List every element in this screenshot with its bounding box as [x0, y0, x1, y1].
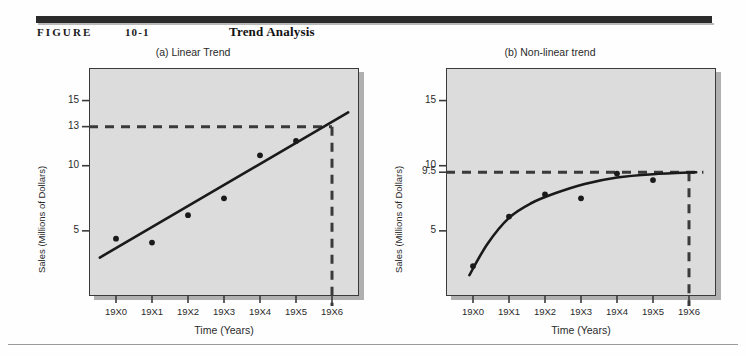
y-tick-label: 15	[398, 94, 436, 105]
y-axis-title-b: Sales (Millions of Dollars)	[393, 166, 404, 273]
data-point	[650, 177, 656, 183]
y-tick-label: 5	[41, 224, 79, 235]
data-point	[578, 195, 584, 201]
plot-graphics-b	[385, 46, 715, 346]
plot-graphics-a	[28, 46, 358, 346]
x-tick-label: 19X6	[668, 306, 710, 317]
y-tick-label: 15	[41, 94, 79, 105]
trend-line	[100, 112, 348, 257]
header-rule	[36, 16, 712, 23]
data-point	[149, 240, 155, 246]
data-point	[614, 171, 620, 177]
y-tick-label: 5	[398, 224, 436, 235]
data-point	[185, 212, 191, 218]
y-axis-title-a: Sales (Millions of Dollars)	[36, 166, 47, 273]
data-point	[113, 236, 119, 242]
x-tick-label: 19X6	[311, 306, 353, 317]
trend-curve	[469, 172, 696, 275]
figure-label: FIGURE	[37, 26, 92, 38]
figure-title: Trend Analysis	[229, 24, 315, 40]
y-tick-label: 9.5	[398, 165, 436, 176]
x-axis-title-b: Time (Years)	[446, 324, 716, 336]
figure-page: FIGURE 10-1 Trend Analysis (a) Linear Tr…	[0, 0, 746, 356]
y-tick-label: 10	[41, 159, 79, 170]
chart-panel-linear-trend: (a) Linear Trend Sales (Millions of Doll…	[28, 46, 358, 346]
data-point	[221, 195, 227, 201]
figure-number: 10-1	[125, 26, 150, 38]
footer-rule	[8, 344, 738, 345]
y-tick-label: 13	[41, 120, 79, 131]
chart-panel-nonlinear-trend: (b) Non-linear trend Sales (Millions of …	[385, 46, 715, 346]
x-axis-title-a: Time (Years)	[89, 324, 359, 336]
data-point	[257, 152, 263, 158]
